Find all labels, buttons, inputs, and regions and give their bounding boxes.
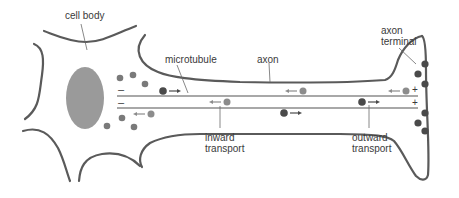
label-inward-transport: inward transport <box>205 132 244 154</box>
plus-end-lower: + <box>412 97 418 108</box>
nucleus <box>66 67 104 129</box>
neuron-diagram: – – + + cell body microtubule axon axon … <box>0 0 459 198</box>
minus-end-upper: – <box>118 84 124 95</box>
label-microtubule: microtubule <box>165 54 217 65</box>
plus-end-upper: + <box>412 84 418 95</box>
outward-cargo <box>159 87 380 117</box>
label-outward-transport: outward transport <box>352 132 391 154</box>
cytoplasm-vesicles <box>104 72 149 131</box>
minus-end-lower: – <box>118 97 124 108</box>
label-cell-body: cell body <box>65 10 104 21</box>
label-axon: axon <box>257 54 279 65</box>
label-axon-terminal: axon terminal <box>381 25 417 47</box>
